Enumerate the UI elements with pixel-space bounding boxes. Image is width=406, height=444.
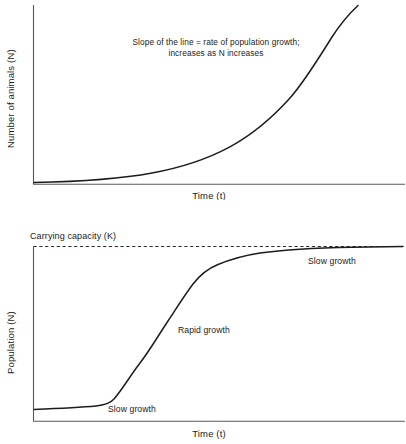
panel-b-y-axis-label: Population (N)	[5, 311, 16, 374]
exponential-growth-chart: Number of animals (N) Time (t) Slope of …	[0, 0, 406, 200]
label-slow-growth-late: Slow growth	[308, 256, 356, 266]
label-slow-growth-early: Slow growth	[108, 404, 156, 414]
exponential-growth-curve	[34, 6, 358, 183]
panel-a-x-axis-label: Time (t)	[192, 190, 226, 200]
panel-b-x-axis-label: Time (t)	[192, 428, 226, 439]
panel-a-y-axis-label: Number of animals (N)	[5, 49, 16, 148]
label-rapid-growth: Rapid growth	[178, 325, 230, 335]
logistic-growth-chart: (b) Logistic population growth Carrying …	[0, 222, 406, 444]
panel-a-annotation-line-2: increases as N increases	[168, 48, 263, 58]
carrying-capacity-label: Carrying capacity (K)	[30, 231, 116, 241]
population-growth-figure: Number of animals (N) Time (t) Slope of …	[0, 0, 406, 444]
panel-a-annotation-line-1: Slope of the line = rate of population g…	[132, 37, 299, 47]
